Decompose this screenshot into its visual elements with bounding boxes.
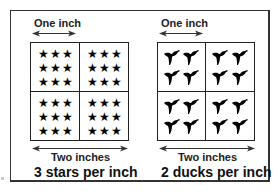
star-icon: ★ (61, 125, 73, 137)
star-icon: ★ (98, 97, 110, 109)
duck-icon (162, 68, 182, 88)
star-icon: ★ (110, 111, 122, 123)
duck-icon (230, 117, 250, 137)
star-icon: ★ (49, 62, 61, 74)
duck-icon (210, 68, 230, 88)
star-icon: ★ (86, 125, 98, 137)
star-icon: ★ (98, 76, 110, 88)
star-cell: ★★★ ★★★ ★★★ (80, 92, 128, 140)
left-one-inch-label: One inch (34, 17, 81, 29)
star-icon: ★ (61, 111, 73, 123)
left-one-inch-arrow-icon (32, 30, 76, 37)
star-cell: ★★★ ★★★ ★★★ (80, 43, 128, 91)
star-icon: ★ (37, 111, 49, 123)
star-cell: ★★★ ★★★ ★★★ (31, 43, 79, 91)
star-icon: ★ (110, 97, 122, 109)
star-icon: ★ (98, 125, 110, 137)
duck-icon (182, 48, 202, 68)
star-icon: ★ (37, 125, 49, 137)
star-icon: ★ (110, 76, 122, 88)
star-icon: ★ (61, 97, 73, 109)
duck-icon (162, 48, 182, 68)
left-caption: 3 stars per inch (34, 164, 138, 180)
star-icon: ★ (86, 62, 98, 74)
star-icon: ★ (61, 62, 73, 74)
duck-cell (158, 92, 205, 140)
star-cell: ★★★ ★★★ ★★★ (31, 92, 79, 140)
duck-icon (182, 68, 202, 88)
star-icon: ★ (37, 48, 49, 60)
star-icon: ★ (86, 111, 98, 123)
duck-icon (210, 48, 230, 68)
star-icon: ★ (110, 125, 122, 137)
duck-icon (182, 97, 202, 117)
star-icon: ★ (49, 97, 61, 109)
star-icon: ★ (37, 62, 49, 74)
scan-artifact (1, 177, 4, 180)
right-one-inch-label: One inch (161, 17, 208, 29)
duck-icon (210, 97, 230, 117)
star-icon: ★ (49, 125, 61, 137)
star-icon: ★ (61, 76, 73, 88)
duck-icon (230, 48, 250, 68)
star-icon: ★ (61, 48, 73, 60)
star-icon: ★ (49, 76, 61, 88)
duck-cell (158, 43, 205, 91)
star-icon: ★ (37, 76, 49, 88)
star-icon: ★ (98, 48, 110, 60)
duck-icon (162, 117, 182, 137)
left-star-grid: ★★★ ★★★ ★★★ ★★★ ★★★ ★★★ ★★★ ★★★ ★★★ ★★★ … (30, 42, 129, 141)
star-icon: ★ (110, 48, 122, 60)
star-icon: ★ (86, 76, 98, 88)
star-icon: ★ (86, 48, 98, 60)
right-two-inches-label: Two inches (178, 151, 237, 163)
star-icon: ★ (49, 111, 61, 123)
duck-icon (230, 97, 250, 117)
duck-icon (162, 97, 182, 117)
star-icon: ★ (110, 62, 122, 74)
star-icon: ★ (86, 97, 98, 109)
duck-icon (230, 68, 250, 88)
star-icon: ★ (49, 48, 61, 60)
duck-icon (182, 117, 202, 137)
duck-cell (206, 43, 254, 91)
duck-icon (210, 117, 230, 137)
star-icon: ★ (98, 62, 110, 74)
right-caption: 2 ducks per inch (161, 164, 271, 180)
duck-cell (206, 92, 254, 140)
left-two-inches-label: Two inches (51, 151, 110, 163)
right-one-inch-arrow-icon (159, 30, 203, 37)
star-icon: ★ (98, 111, 110, 123)
right-duck-grid (157, 42, 255, 141)
star-icon: ★ (37, 97, 49, 109)
